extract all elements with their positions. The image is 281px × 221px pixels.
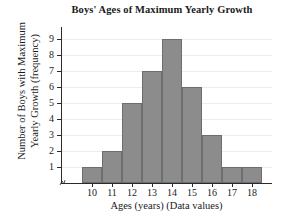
y-axis-title-line-1: Number of Boys with Maximum: [15, 2, 28, 180]
y-tick-label: 4: [32, 114, 54, 124]
y-tick-label: 6: [32, 82, 54, 92]
chart-title: Boys' Ages of Maximum Yearly Growth: [48, 4, 276, 15]
bar: [122, 103, 142, 183]
y-tick-label: 5: [32, 98, 54, 108]
axis-break-icon: [59, 178, 66, 186]
bar: [182, 87, 202, 183]
histogram-chart: Boys' Ages of Maximum Yearly Growth Numb…: [0, 0, 281, 221]
bar: [82, 167, 102, 183]
x-axis-title: Ages (years) (Data values): [61, 200, 272, 211]
bar: [222, 167, 242, 183]
x-tick-label: 18: [240, 187, 264, 198]
y-tick-label: 9: [32, 34, 54, 44]
y-tick-label: 3: [32, 130, 54, 140]
y-tick-label: 2: [32, 146, 54, 156]
y-tick-label: 7: [32, 66, 54, 76]
bar: [142, 71, 162, 183]
bar: [102, 151, 122, 183]
bar: [202, 135, 222, 183]
y-axis-line: [61, 27, 62, 183]
y-tick-label: 1: [32, 162, 54, 172]
bar: [242, 167, 262, 183]
bar: [162, 39, 182, 183]
y-tick-label: 8: [32, 50, 54, 60]
